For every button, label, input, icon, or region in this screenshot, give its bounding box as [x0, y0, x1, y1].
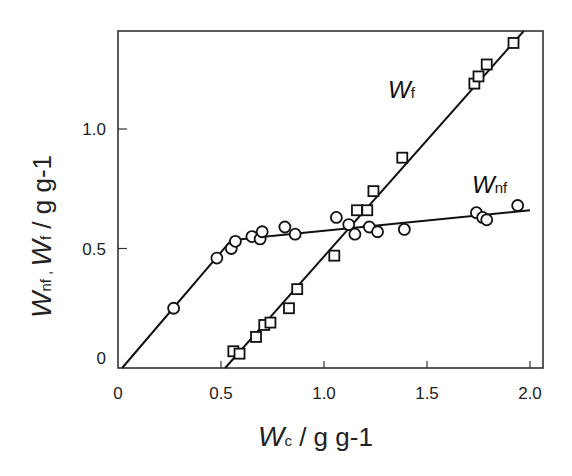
y-tick-label: 1.0: [82, 120, 106, 139]
data-point-wnf: [372, 226, 383, 237]
data-markers: [168, 38, 523, 359]
data-point-wf: [474, 71, 484, 81]
series-label-wnf: Wnf: [472, 171, 508, 198]
data-point-wnf: [349, 229, 360, 240]
y-title-unit: / g g-1: [27, 155, 57, 236]
series-label-wf: Wf: [388, 76, 416, 103]
data-point-wnf: [290, 229, 301, 240]
data-point-wf: [368, 186, 378, 196]
y-axis-title: Wnf , Wf / g g-1: [26, 155, 57, 318]
chart: 00.51.01.52.000.51.0 Wf Wnf Wc / g g-1 W…: [0, 0, 572, 476]
data-point-wf: [292, 284, 302, 294]
data-point-wf: [251, 332, 261, 342]
data-point-wf: [482, 59, 492, 69]
fit-line-wnf: [122, 210, 530, 368]
data-point-wf: [284, 303, 294, 313]
data-point-wnf: [481, 214, 492, 225]
x-tick-label: 0: [113, 384, 122, 403]
wf-label-sub: f: [411, 84, 416, 101]
y-title-sub1: nf: [37, 278, 54, 291]
x-tick-label: 1.5: [415, 384, 439, 403]
wf-label-main: W: [388, 76, 413, 103]
data-point-wnf: [211, 253, 222, 264]
data-point-wnf: [230, 236, 241, 247]
data-point-wf: [329, 251, 339, 261]
data-point-wnf: [331, 212, 342, 223]
data-point-wf: [265, 318, 275, 328]
data-point-wnf: [399, 224, 410, 235]
x-axis-title: Wc / g g-1: [258, 421, 373, 452]
x-tick-label: 1.0: [312, 384, 336, 403]
axis-ticks: 00.51.01.52.000.51.0: [82, 120, 541, 403]
y-title-main1: W: [26, 289, 57, 318]
y-tick-label: 0.5: [82, 240, 106, 259]
data-point-wf: [509, 38, 519, 48]
data-point-wf: [397, 153, 407, 163]
data-point-wnf: [512, 200, 523, 211]
data-point-wnf: [279, 221, 290, 232]
y-title-sep: ,: [37, 267, 54, 280]
x-title-main: W: [258, 421, 287, 452]
data-point-wf: [235, 349, 245, 359]
data-point-wf: [362, 205, 372, 215]
data-point-wf: [352, 205, 362, 215]
wnf-label-main: W: [472, 171, 497, 198]
x-tick-label: 0.5: [209, 384, 233, 403]
data-point-wnf: [168, 303, 179, 314]
y-title-main2: W: [26, 238, 57, 267]
x-title-unit: / g g-1: [292, 422, 373, 452]
wnf-label-sub: nf: [495, 179, 508, 196]
y-tick-label: 0: [97, 349, 106, 368]
data-point-wnf: [257, 226, 268, 237]
x-tick-label: 2.0: [518, 384, 542, 403]
